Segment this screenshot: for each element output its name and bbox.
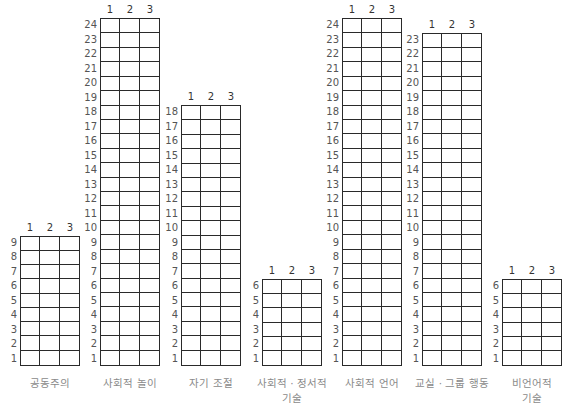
grid-cell[interactable] <box>140 134 159 148</box>
grid-cell[interactable] <box>201 236 220 250</box>
grid-cell[interactable] <box>423 279 442 293</box>
grid-cell[interactable] <box>442 62 461 76</box>
grid-cell[interactable] <box>462 336 481 350</box>
grid-cell[interactable] <box>362 134 381 148</box>
grid-cell[interactable] <box>462 62 481 76</box>
grid-cell[interactable] <box>221 221 240 235</box>
grid-cell[interactable] <box>140 264 159 278</box>
grid-cell[interactable] <box>140 77 159 91</box>
grid-cell[interactable] <box>362 250 381 264</box>
grid-cell[interactable] <box>182 264 201 278</box>
grid-cell[interactable] <box>362 293 381 307</box>
grid-cell[interactable] <box>21 265 40 279</box>
grid-cell[interactable] <box>442 351 461 365</box>
grid-cell[interactable] <box>140 307 159 321</box>
grid-cell[interactable] <box>343 351 362 365</box>
grid-cell[interactable] <box>442 178 461 192</box>
grid-cell[interactable] <box>21 351 40 365</box>
grid-cell[interactable] <box>120 192 139 206</box>
grid-cell[interactable] <box>542 280 561 294</box>
grid-cell[interactable] <box>221 307 240 321</box>
grid-cell[interactable] <box>442 91 461 105</box>
grid-cell[interactable] <box>362 322 381 336</box>
grid-cell[interactable] <box>40 322 59 336</box>
grid-cell[interactable] <box>101 307 120 321</box>
grid-cell[interactable] <box>423 163 442 177</box>
grid-cell[interactable] <box>263 337 282 351</box>
grid-cell[interactable] <box>522 308 541 322</box>
grid-cell[interactable] <box>120 307 139 321</box>
grid-cell[interactable] <box>542 351 561 365</box>
grid-cell[interactable] <box>382 106 401 120</box>
grid-cell[interactable] <box>382 178 401 192</box>
grid-cell[interactable] <box>21 251 40 265</box>
grid-cell[interactable] <box>442 163 461 177</box>
grid-cell[interactable] <box>182 221 201 235</box>
grid-cell[interactable] <box>382 77 401 91</box>
grid-cell[interactable] <box>201 264 220 278</box>
grid-cell[interactable] <box>462 178 481 192</box>
grid-cell[interactable] <box>462 322 481 336</box>
grid-cell[interactable] <box>442 149 461 163</box>
grid-cell[interactable] <box>182 307 201 321</box>
grid-cell[interactable] <box>362 120 381 134</box>
grid-cell[interactable] <box>343 33 362 47</box>
grid-cell[interactable] <box>503 308 522 322</box>
grid-cell[interactable] <box>263 280 282 294</box>
grid-cell[interactable] <box>201 164 220 178</box>
grid-cell[interactable] <box>423 120 442 134</box>
grid-cell[interactable] <box>263 308 282 322</box>
grid-cell[interactable] <box>542 323 561 337</box>
grid-cell[interactable] <box>382 33 401 47</box>
grid-cell[interactable] <box>101 33 120 47</box>
grid-cell[interactable] <box>120 250 139 264</box>
grid-cell[interactable] <box>263 351 282 365</box>
grid-cell[interactable] <box>362 77 381 91</box>
grid-cell[interactable] <box>140 91 159 105</box>
grid-cell[interactable] <box>182 178 201 192</box>
grid-cell[interactable] <box>362 19 381 33</box>
grid-cell[interactable] <box>221 192 240 206</box>
grid-cell[interactable] <box>343 149 362 163</box>
grid-cell[interactable] <box>362 221 381 235</box>
grid-cell[interactable] <box>382 322 401 336</box>
grid-cell[interactable] <box>382 163 401 177</box>
grid-cell[interactable] <box>140 163 159 177</box>
grid-cell[interactable] <box>201 293 220 307</box>
grid-cell[interactable] <box>140 192 159 206</box>
grid-cell[interactable] <box>382 192 401 206</box>
grid-cell[interactable] <box>423 235 442 249</box>
grid-cell[interactable] <box>101 293 120 307</box>
grid-cell[interactable] <box>140 106 159 120</box>
grid-cell[interactable] <box>263 294 282 308</box>
grid-cell[interactable] <box>201 250 220 264</box>
grid-cell[interactable] <box>221 264 240 278</box>
grid-cell[interactable] <box>201 221 220 235</box>
grid-cell[interactable] <box>462 48 481 62</box>
grid-cell[interactable] <box>462 149 481 163</box>
grid-cell[interactable] <box>302 280 321 294</box>
grid-cell[interactable] <box>21 322 40 336</box>
grid-cell[interactable] <box>423 34 442 48</box>
grid-cell[interactable] <box>140 322 159 336</box>
grid-cell[interactable] <box>442 250 461 264</box>
grid-cell[interactable] <box>503 280 522 294</box>
grid-cell[interactable] <box>442 192 461 206</box>
grid-cell[interactable] <box>423 206 442 220</box>
grid-cell[interactable] <box>221 120 240 134</box>
grid-cell[interactable] <box>362 62 381 76</box>
grid-cell[interactable] <box>462 106 481 120</box>
grid-cell[interactable] <box>140 120 159 134</box>
grid-cell[interactable] <box>343 322 362 336</box>
grid-cell[interactable] <box>522 294 541 308</box>
grid-cell[interactable] <box>382 250 401 264</box>
grid-cell[interactable] <box>21 279 40 293</box>
grid-cell[interactable] <box>343 336 362 350</box>
grid-cell[interactable] <box>382 264 401 278</box>
grid-cell[interactable] <box>382 48 401 62</box>
grid-cell[interactable] <box>182 207 201 221</box>
grid-cell[interactable] <box>201 207 220 221</box>
grid-cell[interactable] <box>263 323 282 337</box>
grid-cell[interactable] <box>60 237 79 251</box>
grid-cell[interactable] <box>362 163 381 177</box>
